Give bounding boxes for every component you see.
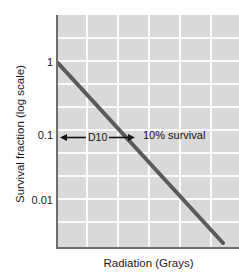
- y-tick-label-0.01: 0.01: [32, 195, 53, 206]
- d10-annotation: D10: [60, 130, 135, 144]
- x-axis-title: Radiation (Grays): [58, 257, 239, 269]
- y-axis-title: Survival fraction (log scale): [14, 44, 26, 224]
- x-axis-line: [56, 247, 239, 249]
- survival-curve-figure: 1 0.1 0.01 Survival fraction (log scale)…: [0, 0, 239, 279]
- d10-label: D10: [88, 132, 107, 143]
- y-tick-label-0.1: 0.1: [38, 130, 53, 141]
- curve-segment: [58, 63, 223, 243]
- survival-callout-label: 10% survival: [143, 130, 205, 141]
- arrow-left-icon: [60, 132, 86, 143]
- y-tick-label-1: 1: [47, 57, 53, 68]
- arrow-right-icon: [109, 132, 135, 143]
- y-axis-line: [56, 15, 58, 248]
- y-axis-ticks: 1 0.1 0.01: [0, 0, 53, 279]
